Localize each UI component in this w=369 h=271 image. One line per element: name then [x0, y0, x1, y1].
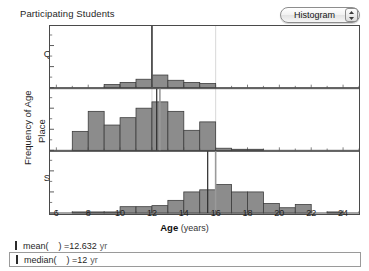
- median-unit: yr: [90, 255, 98, 265]
- histogram-plot-frame[interactable]: [49, 25, 360, 215]
- y-axis-title-place: Place: [36, 119, 47, 143]
- stepper-up-down-icon[interactable]: [345, 8, 358, 22]
- x-tick-24: 24: [333, 208, 353, 218]
- mean-value: 12.632: [69, 241, 97, 251]
- histogram-canvas: [50, 26, 359, 214]
- histogram-bar[interactable]: [136, 79, 152, 87]
- histogram-bar[interactable]: [120, 118, 136, 151]
- histogram-bar[interactable]: [168, 111, 184, 150]
- histogram-bar[interactable]: [168, 80, 184, 87]
- x-tick-12: 12: [142, 208, 162, 218]
- histogram-bar[interactable]: [88, 111, 104, 150]
- x-tick-10: 10: [110, 208, 130, 218]
- x-tick-16: 16: [206, 208, 226, 218]
- x-tick-8: 8: [78, 208, 98, 218]
- histogram-bar[interactable]: [184, 82, 200, 87]
- median-stat-row[interactable]: median( ) = 12 yr: [9, 252, 361, 267]
- mean-stat-row[interactable]: mean( ) = 12.632 yr: [9, 238, 361, 253]
- median-equals: ) =: [67, 255, 78, 265]
- histogram-bar[interactable]: [72, 131, 88, 150]
- histogram-bar[interactable]: [216, 148, 232, 150]
- median-value: 12: [77, 255, 87, 265]
- histogram-bar[interactable]: [248, 149, 264, 150]
- median-handle-icon[interactable]: [16, 255, 18, 264]
- plot-type-dropdown-label: Histogram: [281, 10, 345, 20]
- histogram-bar[interactable]: [120, 82, 136, 87]
- y-axis-title-frequency: Frequency of Age: [22, 91, 33, 165]
- panel-queensland: [50, 26, 359, 88]
- histogram-bar[interactable]: [232, 149, 248, 150]
- mean-handle-icon[interactable]: [15, 241, 17, 250]
- histogram-bar[interactable]: [104, 85, 120, 88]
- histogram-app: Participating Students Histogram Frequen…: [0, 0, 369, 271]
- x-tick-20: 20: [269, 208, 289, 218]
- histogram-bar[interactable]: [200, 122, 216, 150]
- histogram-bar[interactable]: [104, 125, 120, 150]
- x-tick-14: 14: [174, 208, 194, 218]
- page-title: Participating Students: [20, 8, 115, 19]
- x-tick-18: 18: [238, 208, 258, 218]
- panel-south-africa: [50, 151, 359, 213]
- histogram-bar[interactable]: [152, 75, 168, 88]
- x-axis-title-units: (years): [181, 223, 209, 233]
- mean-unit: yr: [100, 241, 108, 251]
- histogram-bar[interactable]: [136, 108, 152, 150]
- x-axis-title: Age (years): [0, 222, 369, 233]
- median-label: median(: [24, 255, 57, 265]
- histogram-bar[interactable]: [184, 130, 200, 150]
- panel-uk: [50, 89, 359, 151]
- x-axis-title-main: Age: [160, 222, 178, 233]
- plot-type-dropdown[interactable]: Histogram: [280, 7, 360, 23]
- x-tick-22: 22: [301, 208, 321, 218]
- histogram-bar[interactable]: [200, 83, 216, 87]
- x-tick-6: 6: [46, 208, 66, 218]
- mean-label: mean(: [23, 241, 49, 251]
- mean-equals: ) =: [59, 241, 70, 251]
